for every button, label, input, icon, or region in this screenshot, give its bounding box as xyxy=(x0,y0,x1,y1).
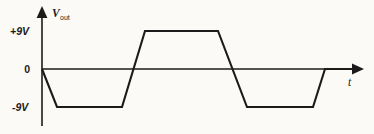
x-axis xyxy=(42,64,364,75)
y-axis-title-subscript: out xyxy=(60,14,70,21)
y-tick-label-plus9: +9V xyxy=(10,25,30,37)
y-axis-arrowhead xyxy=(37,6,48,18)
y-tick-label-zero: 0 xyxy=(24,63,30,75)
y-axis xyxy=(37,6,48,126)
y-axis-title: V out xyxy=(52,7,70,21)
waveform-figure-page: { "figure": { "title": "", "y_axis_label… xyxy=(0,0,374,134)
y-tick-label-minus9: -9V xyxy=(12,101,29,113)
waveform-chart: +9V 0 -9V V out t xyxy=(0,0,374,134)
x-axis-title: t xyxy=(348,76,352,88)
